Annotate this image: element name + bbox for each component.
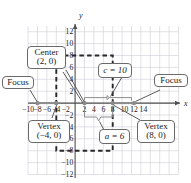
- point-vertex-left: [54, 101, 58, 105]
- callout-vertex-right-value: (8, 0): [140, 131, 172, 140]
- svg-text:12: 12: [130, 105, 138, 114]
- svg-text:4: 4: [92, 105, 96, 114]
- callout-center[interactable]: Center (2, 0): [27, 46, 66, 69]
- callout-c-text: c = 10: [101, 66, 129, 75]
- svg-text:12: 12: [66, 27, 74, 36]
- leader-focus-right: [136, 90, 161, 102]
- svg-text:−8: −8: [33, 105, 41, 114]
- svg-text:14: 14: [140, 105, 148, 114]
- y-axis-arrow: [73, 24, 78, 29]
- svg-text:10: 10: [66, 39, 74, 48]
- point-focus-left: [35, 101, 39, 105]
- callout-focus-left[interactable]: Focus: [2, 76, 34, 89]
- callout-vertex-right[interactable]: Vertex (8, 0): [137, 120, 175, 143]
- svg-text:−10: −10: [61, 158, 73, 167]
- svg-text:−12: −12: [61, 170, 73, 179]
- callout-a-text: a = 6: [102, 132, 127, 141]
- callout-vertex-left[interactable]: Vertex (−4, 0): [28, 120, 70, 143]
- callout-focus-right[interactable]: Focus: [154, 74, 188, 87]
- point-center: [82, 101, 86, 105]
- point-vertex-right: [111, 101, 115, 105]
- callout-focus-left-title: Focus: [5, 78, 31, 87]
- leader-focus-left: [30, 90, 37, 102]
- svg-text:−6: −6: [43, 105, 51, 114]
- callout-focus-right-title: Focus: [157, 76, 185, 85]
- callout-vertex-left-value: (−4, 0): [31, 131, 67, 140]
- svg-text:−2: −2: [65, 111, 73, 120]
- svg-text:−10: −10: [22, 105, 34, 114]
- brace-a: [85, 107, 113, 122]
- brace-c: [85, 96, 132, 101]
- x-axis-arrow: [175, 101, 180, 106]
- figure-canvas: −10 −8 −6 −4 −2 2 4 6 8 10 12 14 12 10 8…: [0, 0, 191, 183]
- coordinate-graph-svg: −10 −8 −6 −4 −2 2 4 6 8 10 12 14 12 10 8…: [0, 0, 191, 183]
- svg-text:10: 10: [121, 105, 129, 114]
- svg-text:6: 6: [69, 63, 73, 72]
- callout-a-value[interactable]: a = 6: [99, 129, 130, 144]
- callout-c-value[interactable]: c = 10: [98, 63, 132, 78]
- callout-center-value: (2, 0): [30, 57, 63, 66]
- y-axis-title: y: [78, 11, 83, 20]
- svg-text:2: 2: [69, 87, 73, 96]
- x-axis-title: x: [183, 99, 188, 108]
- svg-text:6: 6: [101, 105, 105, 114]
